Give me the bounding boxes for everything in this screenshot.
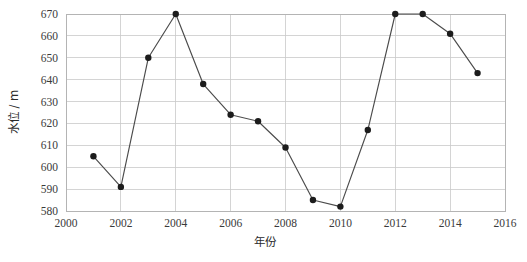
y-tick-label-580: 580 xyxy=(41,205,59,217)
x-tick-label-2004: 2004 xyxy=(164,217,187,229)
y-tick-label-630: 630 xyxy=(41,96,59,108)
x-tick-label-2016: 2016 xyxy=(494,217,517,229)
x-tick-label-2012: 2012 xyxy=(384,217,407,229)
data-point-2002 xyxy=(118,184,124,190)
data-point-2004 xyxy=(173,11,179,17)
x-tick-label-2006: 2006 xyxy=(219,217,242,229)
y-tick-label-590: 590 xyxy=(41,183,59,195)
y-tick-label-660: 660 xyxy=(41,30,59,42)
y-tick-label-670: 670 xyxy=(41,8,59,20)
y-tick-label-610: 610 xyxy=(41,139,59,151)
x-tick-label-2010: 2010 xyxy=(329,217,352,229)
x-tick-label-2000: 2000 xyxy=(55,217,78,229)
data-point-2008 xyxy=(282,144,288,150)
data-point-2014 xyxy=(447,31,453,37)
chart-canvas: 580590600610620630640650660670 200020022… xyxy=(0,0,527,262)
y-tick-label-620: 620 xyxy=(41,117,59,129)
data-point-2001 xyxy=(90,153,96,159)
data-point-2007 xyxy=(255,118,261,124)
y-tick-label-600: 600 xyxy=(41,161,59,173)
x-axis-tick-labels: 200020022004200620082010201220142016 xyxy=(55,217,517,229)
y-tick-label-640: 640 xyxy=(41,74,59,86)
data-point-2005 xyxy=(200,81,206,87)
x-tick-label-2014: 2014 xyxy=(439,217,462,229)
data-point-2003 xyxy=(145,55,151,61)
data-point-2012 xyxy=(392,11,398,17)
x-tick-label-2008: 2008 xyxy=(274,217,297,229)
x-axis-title: 年份 xyxy=(254,235,277,249)
data-point-2009 xyxy=(310,197,316,203)
data-point-2006 xyxy=(227,111,233,117)
line-chart: 580590600610620630640650660670 200020022… xyxy=(0,0,527,262)
data-point-2011 xyxy=(365,127,371,133)
x-tick-label-2002: 2002 xyxy=(109,217,132,229)
data-point-2015 xyxy=(474,70,480,76)
y-axis-title: 水位 / m xyxy=(7,90,21,134)
data-point-2013 xyxy=(419,11,425,17)
y-tick-label-650: 650 xyxy=(41,52,59,64)
data-point-2010 xyxy=(337,203,343,209)
